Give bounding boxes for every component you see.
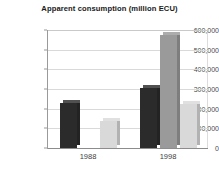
bar-side-shadow [197,101,200,145]
y-tick-mark [44,148,47,149]
bar-side-shadow [117,118,120,145]
y-tick-mark [44,89,47,90]
bar [60,103,77,148]
x-tick-label: 1988 [80,152,97,161]
gridline [48,89,208,90]
y-tick-mark [44,30,47,31]
bar [140,88,157,148]
bar [180,104,197,148]
bar-face [140,88,157,148]
y-tick-mark [44,108,47,109]
gridline [48,69,208,70]
bar-top-highlight [103,118,120,121]
bar-face [60,103,77,148]
plot-area [48,30,208,148]
y-tick-mark [44,69,47,70]
y-tick-mark [44,128,47,129]
bar-face [160,35,177,148]
bar-top-highlight [143,85,160,88]
chart-title: Apparent consumption (million ECU) [0,4,219,13]
bar-chart: Apparent consumption (million ECU) 600,0… [0,0,219,182]
gridline [48,30,208,31]
bar-face [180,104,197,148]
bar-top-highlight [163,32,180,35]
gridline [48,148,208,149]
x-tick-label: 1998 [160,152,177,161]
gridline [48,50,208,51]
bar-top-highlight [63,100,80,103]
bar-face [100,121,117,148]
y-tick-mark [44,49,47,50]
bar-side-shadow [77,100,80,145]
bar [160,35,177,148]
bar [100,121,117,148]
bar-top-highlight [183,101,200,104]
